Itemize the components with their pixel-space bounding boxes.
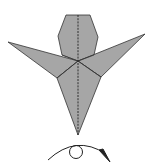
- origami-diagram: [0, 0, 146, 165]
- turn-over-icon: [48, 145, 110, 162]
- folded-model: [8, 15, 145, 135]
